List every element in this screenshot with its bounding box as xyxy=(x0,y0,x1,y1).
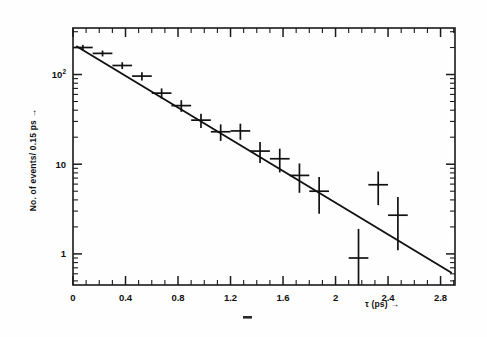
x-tick-label: 1.2 xyxy=(224,292,237,303)
data-point xyxy=(270,149,290,173)
y-tick-label: 10 xyxy=(55,159,66,170)
data-point xyxy=(152,88,172,98)
data-point xyxy=(231,124,251,140)
x-tick-label: 0.4 xyxy=(119,292,133,303)
data-points-group xyxy=(73,45,408,285)
x-tick-label: 1.6 xyxy=(276,292,289,303)
x-tick-label: 0.8 xyxy=(171,292,184,303)
y-tick-label: 1 xyxy=(61,248,67,259)
x-axis-title: τ (ps) → xyxy=(365,299,399,309)
data-point xyxy=(388,197,408,250)
data-point xyxy=(171,100,191,112)
x-axis-ticks xyxy=(73,28,454,285)
stray-dash-mark xyxy=(243,316,252,319)
data-point xyxy=(309,177,329,214)
x-tick-label: 0 xyxy=(70,292,75,303)
data-point xyxy=(368,171,388,205)
fit-line-segment xyxy=(77,47,451,273)
y-tick-label: 102 xyxy=(52,68,67,80)
chart-canvas: 110102 00.40.81.21.622.42.8 τ (ps) → No.… xyxy=(0,0,487,337)
exponential-fit-line xyxy=(77,47,451,273)
y-axis-tick-labels: 110102 xyxy=(52,68,67,259)
data-point xyxy=(132,72,152,80)
data-point xyxy=(93,51,113,57)
y-axis-title: No. of events/ 0.15 ps → xyxy=(28,109,38,212)
data-point xyxy=(73,45,93,50)
data-point xyxy=(290,163,310,192)
x-tick-label: 2 xyxy=(333,292,338,303)
data-point xyxy=(112,62,132,69)
figure-panel: 110102 00.40.81.21.622.42.8 τ (ps) → No.… xyxy=(0,0,487,337)
data-point xyxy=(349,229,369,285)
x-tick-label: 2.8 xyxy=(434,292,447,303)
